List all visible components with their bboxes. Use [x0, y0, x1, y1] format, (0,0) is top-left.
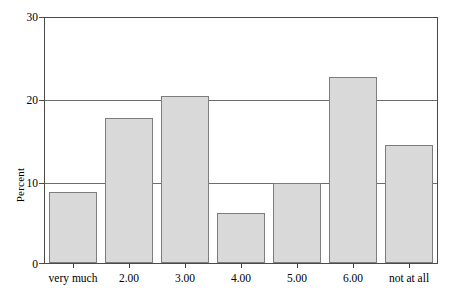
bar [329, 77, 377, 263]
bar [273, 183, 321, 263]
y-tick-label-30: 30 [12, 12, 38, 23]
bar [161, 96, 209, 263]
bar [105, 118, 153, 263]
bar [49, 192, 97, 263]
bar [217, 213, 265, 263]
y-tick-label-10: 10 [12, 178, 38, 189]
x-tick-label: not at all [389, 271, 429, 285]
x-tick-mark [297, 264, 298, 268]
x-tick-mark [353, 264, 354, 268]
bars-container [45, 18, 437, 263]
x-tick-mark [185, 264, 186, 268]
x-tick-mark [129, 264, 130, 268]
y-tick-label-0: 0 [12, 259, 38, 270]
x-tick-label: 2.00 [119, 271, 139, 285]
x-tick-mark [73, 264, 74, 268]
x-tick-label: 5.00 [287, 271, 307, 285]
bar-chart: Percent 30 20 10 0 very much2.003.004.00… [0, 0, 455, 298]
bar [385, 145, 433, 263]
x-tick-label: very much [49, 271, 98, 285]
x-tick-label: 4.00 [231, 271, 251, 285]
x-tick-label: 6.00 [343, 271, 363, 285]
y-axis-tick-labels: 30 20 10 0 [8, 0, 38, 298]
y-tick-label-20: 20 [12, 95, 38, 106]
x-tick-mark [241, 264, 242, 268]
x-tick-label: 3.00 [175, 271, 195, 285]
x-tick-mark [409, 264, 410, 268]
